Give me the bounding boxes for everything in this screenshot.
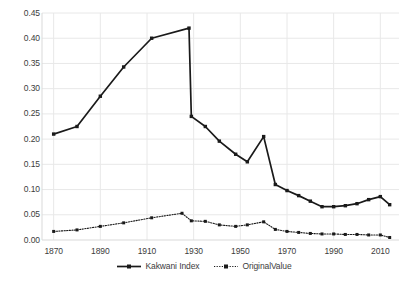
legend-item[interactable]: Kakwani Index <box>116 262 199 271</box>
x-tick-label: 1950 <box>220 247 260 256</box>
legend-label: OriginalValue <box>242 262 291 271</box>
x-tick-label: 1970 <box>267 247 307 256</box>
chart-legend: Kakwani IndexOriginalValue <box>0 262 408 271</box>
legend-label: Kakwani Index <box>145 262 199 271</box>
legend-dotted-line-icon <box>213 262 239 271</box>
x-tick-label: 1990 <box>314 247 354 256</box>
x-tick-label: 1890 <box>80 247 120 256</box>
legend-item[interactable]: OriginalValue <box>213 262 291 271</box>
x-axis-tick-labels: 18701890191019301950197019902010 <box>0 0 408 284</box>
x-tick-label: 1870 <box>34 247 74 256</box>
x-tick-label: 1910 <box>127 247 167 256</box>
x-tick-label: 2010 <box>360 247 400 256</box>
chart-container: 0.000.050.100.150.200.250.300.350.400.45… <box>0 0 408 284</box>
legend-solid-line-icon <box>116 262 142 271</box>
x-tick-label: 1930 <box>174 247 214 256</box>
